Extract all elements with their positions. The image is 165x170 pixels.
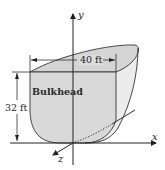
bulkhead-label: Bulkhead [32, 87, 83, 97]
height-dimension-label: 32 ft [4, 103, 28, 113]
z-axis-label: z [58, 154, 63, 164]
x-axis-label: x [152, 132, 158, 142]
width-dim-arrow-left [31, 58, 37, 62]
diagram-graphics [0, 0, 165, 170]
height-dim-arrow-top [15, 73, 19, 79]
tank-diagram: y x z 40 ft 32 ft Bulkhead [0, 0, 165, 170]
height-dim-arrow-bottom [15, 135, 19, 141]
width-dimension-label: 40 ft [79, 55, 103, 65]
y-axis-label: y [78, 10, 84, 20]
